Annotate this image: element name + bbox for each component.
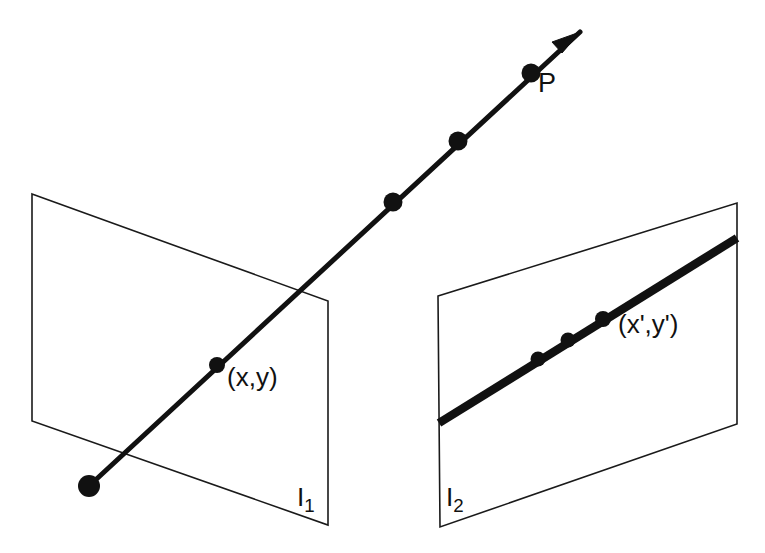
scene-point-label-P: P [538, 70, 556, 97]
image-line-dot-right [595, 311, 611, 327]
plane-1-label: I1 [297, 484, 315, 516]
image-plane-2-outline [438, 203, 737, 527]
figure-canvas: P (x,y) (x',y') I1 I2 [0, 0, 765, 553]
ray-dot-mid-lower [384, 193, 403, 212]
plane-2-label: I2 [446, 484, 464, 516]
scene-ray-line [89, 32, 580, 486]
image-point-label-xprime-yprime: (x',y') [618, 311, 678, 337]
plane-1-label-subscript: 1 [304, 495, 314, 516]
ray-origin-dot [78, 475, 100, 497]
ray-arrowhead-icon [552, 32, 580, 53]
image-point-label-xy: (x,y) [227, 364, 278, 390]
image-line-dot-left [531, 352, 546, 367]
diagram-svg [0, 0, 765, 553]
projected-line-in-plane-2 [439, 238, 737, 423]
image-point-xy-dot [209, 357, 225, 373]
plane-2-label-subscript: 2 [453, 495, 463, 516]
image-plane-1-outline [32, 194, 328, 525]
ray-dot-mid-upper [449, 132, 468, 151]
image-line-dot-mid [561, 333, 576, 348]
